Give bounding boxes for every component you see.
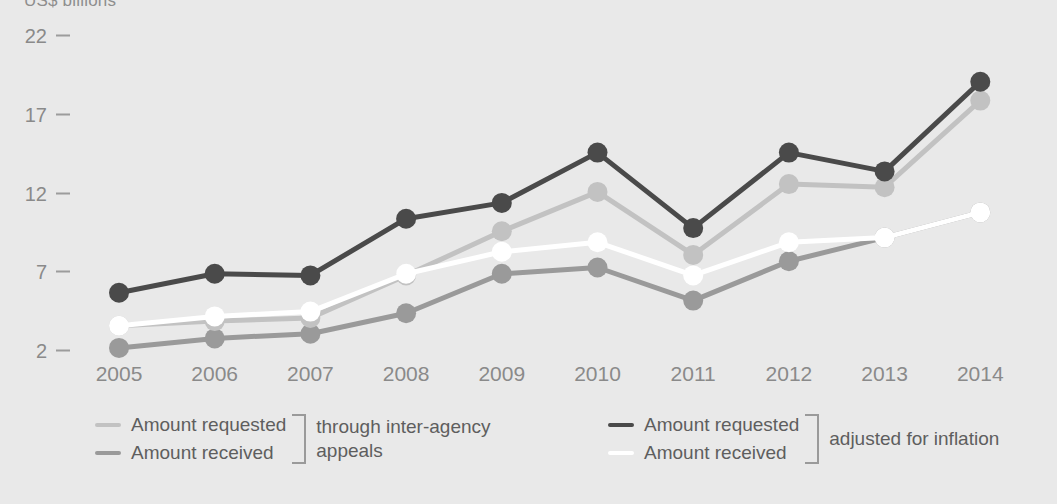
data-point	[109, 338, 129, 358]
data-point	[588, 182, 608, 202]
data-point	[492, 242, 512, 262]
data-point	[875, 228, 895, 248]
data-point	[300, 265, 320, 285]
data-point	[683, 265, 703, 285]
legend-item-label: Amount received	[131, 442, 274, 464]
legend-swatch-icon	[95, 451, 121, 455]
data-point	[779, 251, 799, 271]
data-point	[683, 218, 703, 238]
chart-canvas: US$ billions 27121722 200520062007200820…	[0, 0, 1057, 504]
legend-bracket-left	[292, 414, 306, 464]
data-point	[683, 245, 703, 265]
legend-bracket-label-left: through inter-agency appeals	[316, 415, 490, 463]
legend-item-label: Amount requested	[644, 414, 799, 436]
data-point	[205, 264, 225, 284]
legend-bracket-right	[805, 414, 819, 464]
legend-group-appeals: Amount requestedAmount received through …	[95, 414, 491, 464]
plot-area	[0, 0, 1057, 400]
legend-swatch-icon	[608, 423, 634, 427]
data-point	[492, 264, 512, 284]
series-line	[109, 91, 990, 336]
legend-item-label: Amount requested	[131, 414, 286, 436]
data-point	[875, 161, 895, 181]
data-point	[970, 91, 990, 111]
data-point	[588, 258, 608, 278]
data-point	[683, 291, 703, 311]
legend-swatch-icon	[608, 451, 634, 455]
data-point	[779, 174, 799, 194]
data-point	[588, 232, 608, 252]
data-point	[300, 302, 320, 322]
legend-item[interactable]: Amount received	[608, 442, 799, 464]
data-point	[205, 328, 225, 348]
data-point	[109, 316, 129, 336]
data-point	[396, 303, 416, 323]
series-path	[119, 101, 980, 326]
data-point	[396, 264, 416, 284]
legend-group-inflation: Amount requestedAmount received adjusted…	[608, 414, 999, 464]
legend-item-label: Amount received	[644, 442, 787, 464]
series-line	[109, 202, 990, 358]
legend-item[interactable]: Amount requested	[95, 414, 286, 436]
data-point	[492, 221, 512, 241]
data-point	[970, 202, 990, 222]
legend-item[interactable]: Amount requested	[608, 414, 799, 436]
data-point	[588, 143, 608, 163]
legend-bracket-label-right: adjusted for inflation	[829, 427, 999, 451]
data-point	[779, 232, 799, 252]
data-point	[205, 306, 225, 326]
legend-swatch-icon	[95, 423, 121, 427]
series-path	[119, 212, 980, 348]
data-point	[970, 72, 990, 92]
data-point	[396, 209, 416, 229]
data-point	[779, 143, 799, 163]
data-point	[109, 283, 129, 303]
data-point	[492, 193, 512, 213]
legend-item[interactable]: Amount received	[95, 442, 286, 464]
